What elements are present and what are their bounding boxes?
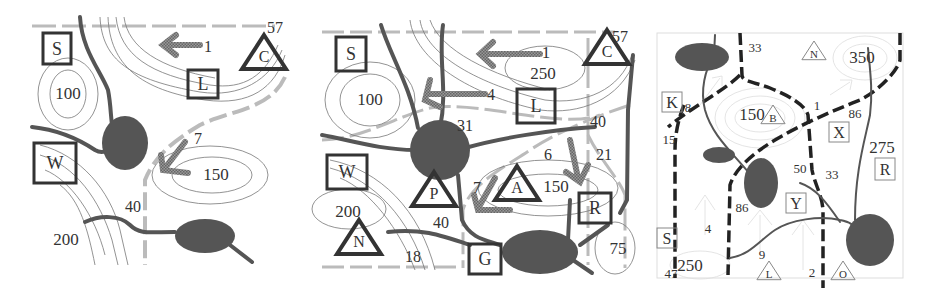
- elevation-label: 150: [203, 165, 229, 184]
- number-label: 4: [705, 221, 712, 236]
- svg-text:S: S: [346, 44, 356, 64]
- svg-text:O: O: [839, 268, 847, 280]
- square-marker-s: S: [43, 33, 71, 64]
- number-label: 1: [204, 38, 212, 55]
- svg-text:L: L: [531, 96, 542, 116]
- number-label: 40: [433, 214, 449, 231]
- elevation-label: 150: [543, 177, 569, 196]
- square-marker-k: K: [662, 92, 682, 112]
- elevation-label: 100: [357, 90, 383, 109]
- panel-1-arrows: [161, 35, 200, 173]
- number-label: 1: [814, 98, 821, 113]
- number-label: 86: [736, 200, 750, 215]
- number-label: 57: [612, 28, 628, 45]
- triangle-marker-o: O: [831, 261, 855, 280]
- triangle-marker-a: A: [495, 166, 539, 200]
- elevation-label: 350: [849, 48, 875, 67]
- square-marker-s: S: [336, 37, 366, 71]
- elevation-label: 150: [739, 105, 765, 124]
- number-label: 40: [590, 113, 606, 130]
- number-label: 40: [125, 198, 141, 215]
- lake: [502, 230, 578, 274]
- number-label: 9: [759, 247, 766, 262]
- number-label: 15: [663, 132, 676, 147]
- lake: [846, 214, 894, 266]
- svg-text:W: W: [339, 162, 356, 182]
- lake: [703, 147, 735, 163]
- svg-text:Y: Y: [790, 195, 802, 212]
- svg-text:K: K: [666, 94, 678, 111]
- elevation-label: 250: [677, 256, 703, 275]
- lake: [175, 219, 235, 253]
- lake: [744, 158, 778, 208]
- svg-text:W: W: [47, 153, 64, 173]
- svg-text:X: X: [833, 124, 845, 141]
- number-label: 33: [826, 167, 839, 182]
- svg-text:P: P: [430, 185, 439, 202]
- elevation-label: 275: [869, 138, 895, 157]
- svg-text:G: G: [479, 249, 492, 269]
- svg-text:N: N: [810, 48, 818, 60]
- number-label: 18: [405, 248, 421, 265]
- triangle-marker-l: L: [757, 261, 781, 280]
- number-label: 7: [473, 179, 481, 196]
- svg-text:R: R: [880, 161, 891, 178]
- elevation-label: 200: [53, 230, 79, 249]
- svg-text:L: L: [766, 268, 773, 280]
- number-label: 6: [544, 146, 552, 163]
- number-label: 2: [809, 265, 816, 280]
- triangle-marker-c: C: [242, 35, 286, 69]
- svg-text:B: B: [769, 112, 776, 124]
- square-marker-w: W: [327, 155, 367, 189]
- square-marker-x: X: [829, 122, 849, 142]
- square-marker-l: L: [188, 70, 218, 98]
- svg-text:N: N: [353, 233, 365, 250]
- square-marker-w: W: [34, 143, 76, 183]
- number-label: 86: [849, 106, 863, 121]
- svg-text:L: L: [198, 74, 209, 94]
- elevation-label: 200: [335, 202, 361, 221]
- triangle-marker-n: N: [337, 220, 381, 254]
- triangle-marker-n: N: [802, 41, 826, 60]
- elevation-label: 75: [610, 239, 627, 258]
- map-panel-1: SLWSLWRGKXRYS CCAPNNBLO 1001502005717401…: [0, 0, 933, 298]
- elevation-label: 1: [542, 43, 551, 62]
- lake: [675, 43, 729, 71]
- number-label: 47: [665, 266, 679, 281]
- square-marker-r: R: [875, 158, 895, 180]
- lake: [102, 116, 148, 170]
- number-label: 7: [194, 130, 202, 147]
- number-label: 4: [487, 86, 495, 103]
- elevation-label: 100: [55, 84, 81, 103]
- number-label: 8: [685, 100, 692, 115]
- square-marker-y: Y: [786, 193, 806, 213]
- number-label: 33: [749, 40, 762, 55]
- svg-text:S: S: [663, 230, 672, 247]
- number-label: 57: [267, 19, 283, 36]
- number-label: 21: [596, 146, 612, 163]
- svg-text:R: R: [589, 198, 601, 218]
- elevation-label: 250: [530, 64, 556, 83]
- svg-text:S: S: [52, 39, 62, 59]
- number-label: 31: [457, 117, 473, 134]
- square-marker-g: G: [469, 244, 501, 274]
- square-marker-r: R: [579, 193, 611, 223]
- svg-text:A: A: [511, 179, 523, 196]
- svg-text:C: C: [259, 48, 270, 65]
- number-label: 50: [794, 161, 807, 176]
- svg-text:C: C: [602, 43, 613, 60]
